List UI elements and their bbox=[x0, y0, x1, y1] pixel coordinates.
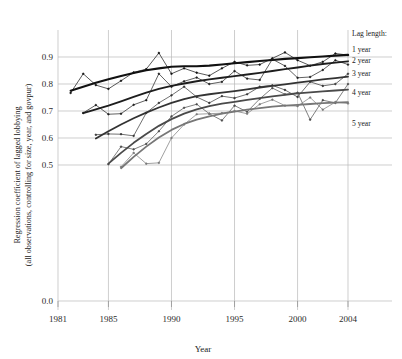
data-point-marker bbox=[183, 80, 185, 82]
data-point-marker bbox=[171, 137, 173, 139]
data-point-marker bbox=[171, 116, 173, 118]
x-tick-label: 2004 bbox=[339, 314, 358, 324]
data-point-marker bbox=[221, 67, 223, 69]
data-point-marker bbox=[108, 133, 110, 135]
data-point-marker bbox=[196, 113, 198, 115]
regression-line-chart: 198119851990199520002004 0.00.50.60.70.8… bbox=[0, 0, 402, 359]
data-point-marker bbox=[221, 120, 223, 122]
data-point-marker bbox=[272, 87, 274, 89]
data-point-marker bbox=[297, 59, 299, 61]
data-point-marker bbox=[183, 67, 185, 69]
data-point-marker bbox=[82, 73, 84, 75]
chart-container: 198119851990199520002004 0.00.50.60.70.8… bbox=[0, 0, 402, 359]
data-point-marker bbox=[335, 59, 337, 61]
x-axis-title: Year bbox=[195, 344, 212, 354]
data-point-marker bbox=[95, 84, 97, 86]
y-axis-title-line2: (all observations, controlling for size,… bbox=[24, 83, 33, 266]
legend-title: Lag length: bbox=[352, 29, 387, 38]
data-point-marker bbox=[322, 109, 324, 111]
data-point-marker bbox=[347, 64, 349, 66]
data-point-marker bbox=[196, 103, 198, 105]
data-point-marker bbox=[158, 73, 160, 75]
data-point-marker bbox=[145, 163, 147, 165]
data-point-marker bbox=[158, 102, 160, 104]
data-point-marker bbox=[158, 162, 160, 164]
data-point-marker bbox=[322, 85, 324, 87]
data-point-marker bbox=[309, 97, 311, 99]
data-point-marker bbox=[322, 61, 324, 63]
y-tick-label: 0.7 bbox=[42, 106, 54, 116]
data-point-marker bbox=[133, 104, 135, 106]
data-point-marker bbox=[234, 97, 236, 99]
data-point-marker bbox=[70, 92, 72, 94]
x-tick-label: 1990 bbox=[162, 314, 181, 324]
data-point-marker bbox=[95, 134, 97, 136]
data-point-marker bbox=[158, 130, 160, 132]
data-point-marker bbox=[108, 88, 110, 90]
legend-entry-5-year: 5 year bbox=[352, 119, 371, 128]
legend-entry-3-year: 3 year bbox=[352, 69, 371, 78]
data-point-marker bbox=[158, 52, 160, 54]
data-point-marker bbox=[246, 113, 248, 115]
data-point-marker bbox=[208, 83, 210, 85]
legend-entry-1-year: 1 year bbox=[352, 45, 371, 54]
data-point-marker bbox=[259, 103, 261, 105]
data-point-marker bbox=[347, 83, 349, 85]
data-point-marker bbox=[171, 94, 173, 96]
data-point-marker bbox=[309, 76, 311, 78]
x-tick-label: 1995 bbox=[226, 314, 245, 324]
data-point-marker bbox=[284, 65, 286, 67]
data-point-marker bbox=[234, 70, 236, 72]
data-point-marker bbox=[309, 119, 311, 121]
data-point-marker bbox=[133, 148, 135, 150]
data-point-marker bbox=[196, 77, 198, 79]
legend-entry-4-year: 4 year bbox=[352, 88, 371, 97]
data-point-marker bbox=[208, 75, 210, 77]
data-point-marker bbox=[246, 111, 248, 113]
x-tick-label: 1985 bbox=[99, 314, 118, 324]
data-point-marker bbox=[284, 89, 286, 91]
y-tick-label: 0.5 bbox=[42, 160, 54, 170]
data-point-marker bbox=[120, 80, 122, 82]
data-point-marker bbox=[208, 102, 210, 104]
data-point-marker bbox=[221, 81, 223, 83]
y-tick-label: 0.9 bbox=[42, 52, 54, 62]
data-point-marker bbox=[171, 73, 173, 75]
data-point-marker bbox=[335, 53, 337, 55]
data-point-marker bbox=[297, 96, 299, 98]
data-point-marker bbox=[259, 64, 261, 66]
chart-background bbox=[0, 0, 402, 359]
data-point-marker bbox=[183, 86, 185, 88]
data-point-marker bbox=[133, 152, 135, 154]
y-tick-label: 0.6 bbox=[42, 133, 54, 143]
data-point-marker bbox=[246, 78, 248, 80]
data-point-marker bbox=[259, 79, 261, 81]
data-point-marker bbox=[347, 73, 349, 75]
data-point-marker bbox=[208, 113, 210, 115]
data-point-marker bbox=[322, 69, 324, 71]
data-point-marker bbox=[108, 113, 110, 115]
data-point-marker bbox=[234, 105, 236, 107]
data-point-marker bbox=[221, 95, 223, 97]
data-point-marker bbox=[272, 58, 274, 60]
data-point-marker bbox=[120, 133, 122, 135]
data-point-marker bbox=[284, 52, 286, 54]
x-tick-label: 2000 bbox=[289, 314, 308, 324]
y-axis-title-line1: Regression coefficient of lagged lobbyin… bbox=[13, 106, 22, 243]
data-point-marker bbox=[246, 93, 248, 95]
y-tick-label: 0.8 bbox=[42, 79, 54, 89]
data-point-marker bbox=[183, 107, 185, 109]
y-tick-label: 0.0 bbox=[42, 296, 54, 306]
data-point-marker bbox=[196, 72, 198, 74]
data-point-marker bbox=[246, 65, 248, 67]
data-point-marker bbox=[145, 99, 147, 101]
data-point-marker bbox=[335, 83, 337, 85]
data-point-marker bbox=[120, 113, 122, 115]
x-tick-label: 1981 bbox=[49, 314, 67, 324]
legend-entry-2-year: 2 year bbox=[352, 56, 371, 65]
data-point-marker bbox=[95, 104, 97, 106]
data-point-marker bbox=[297, 77, 299, 79]
data-point-marker bbox=[133, 135, 135, 137]
data-point-marker bbox=[272, 99, 274, 101]
data-point-marker bbox=[120, 146, 122, 148]
